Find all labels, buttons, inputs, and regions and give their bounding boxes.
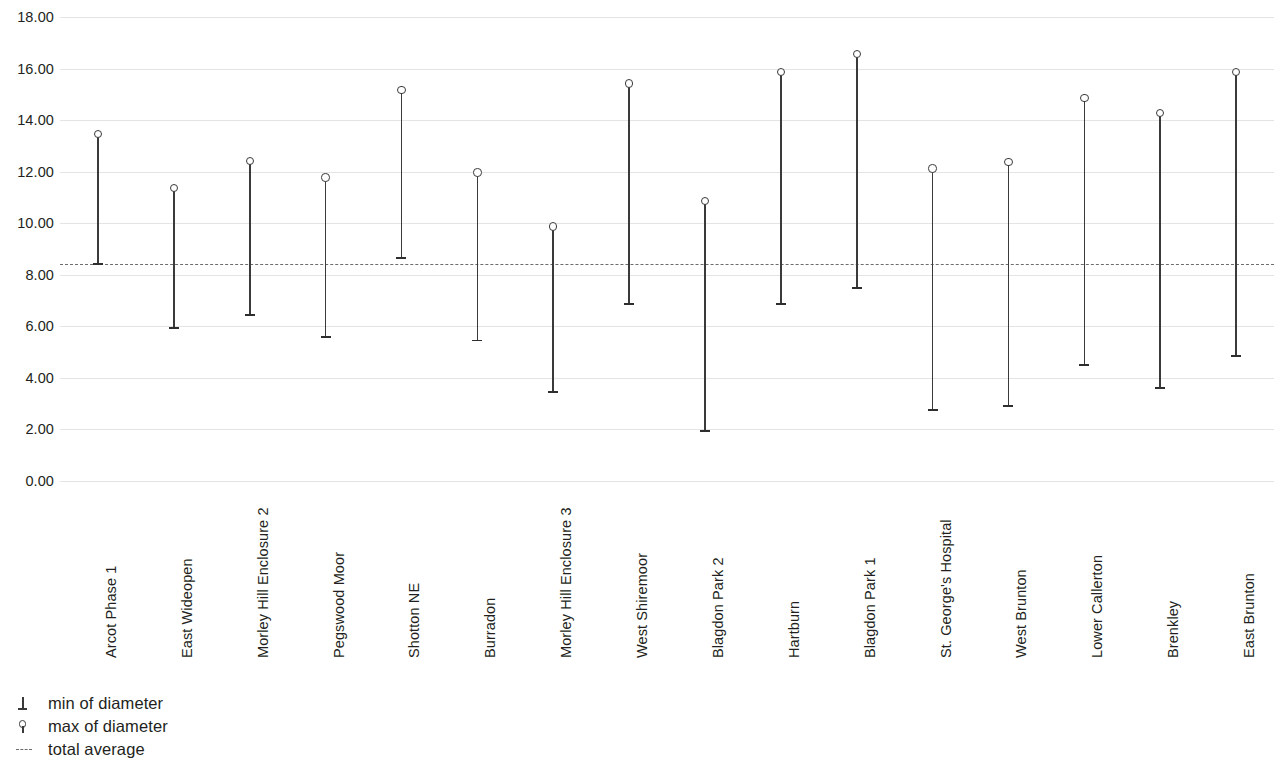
x-axis-tick-label: Blagdon Park 1: [863, 557, 878, 658]
min-marker: [1231, 355, 1241, 357]
x-axis-tick-label: Arcot Phase 1: [104, 566, 119, 658]
range-stem: [325, 178, 327, 337]
max-marker: [1004, 158, 1012, 166]
min-marker: [93, 263, 103, 265]
x-axis-tick: Brenkley: [1166, 601, 1181, 658]
y-axis-tick-label: 8.00: [6, 268, 54, 283]
x-axis-tick: Lower Callerton: [1090, 555, 1105, 658]
y-axis-tick-label: 10.00: [6, 216, 54, 231]
x-axis-tick: Morley Hill Enclosure 2: [256, 507, 271, 658]
min-cap-icon: [14, 692, 48, 715]
dashed-line-icon: [14, 738, 48, 761]
range-stem: [1008, 163, 1010, 407]
max-marker: [94, 130, 102, 138]
x-axis-tick-label: Morley Hill Enclosure 2: [256, 507, 271, 658]
y-axis-tick-label: 4.00: [6, 371, 54, 386]
max-marker: [701, 197, 709, 205]
range-stem: [401, 90, 403, 258]
legend-item-min: min of diameter: [14, 692, 334, 715]
x-axis-tick-label: Blagdon Park 2: [711, 557, 726, 658]
max-marker: [1232, 68, 1240, 76]
x-axis-tick-label: Burradon: [483, 598, 498, 658]
min-marker: [700, 430, 710, 432]
y-axis-tick-label: 18.00: [6, 10, 54, 25]
range-stem: [552, 227, 554, 392]
range-stem: [856, 54, 858, 287]
gridline: [60, 378, 1274, 379]
chart-legend: min of diameter max of diameter total av…: [14, 692, 334, 761]
x-axis-tick: West Brunton: [1014, 569, 1029, 658]
x-axis-tick: St. George's Hospital: [939, 519, 954, 658]
max-circle-icon: [14, 715, 48, 738]
legend-label-average: total average: [48, 738, 145, 761]
max-marker: [777, 68, 785, 76]
min-marker: [472, 340, 482, 342]
x-axis-tick: Blagdon Park 1: [863, 557, 878, 658]
min-marker: [396, 257, 406, 259]
y-axis-tick-label: 2.00: [6, 422, 54, 437]
y-axis-tick-label: 0.00: [6, 474, 54, 489]
gridline: [60, 429, 1274, 430]
x-axis-tick-label: St. George's Hospital: [939, 519, 954, 658]
range-stem: [932, 169, 934, 410]
legend-label-min: min of diameter: [48, 692, 163, 715]
min-marker: [928, 409, 938, 411]
average-reference-line: [60, 264, 1274, 265]
y-axis-tick-label: 16.00: [6, 62, 54, 77]
max-marker: [397, 86, 405, 94]
range-stem: [1084, 98, 1086, 365]
max-marker: [625, 79, 633, 87]
min-marker: [169, 327, 179, 329]
x-axis-tick-label: East Brunton: [1242, 573, 1257, 658]
x-axis-tick-label: Shotton NE: [407, 583, 422, 658]
gridline: [60, 223, 1274, 224]
x-axis-tick: Morley Hill Enclosure 3: [559, 507, 574, 658]
x-axis-tick: Hartburn: [787, 601, 802, 658]
legend-item-max: max of diameter: [14, 715, 334, 738]
y-axis-tick-label: 6.00: [6, 319, 54, 334]
max-marker: [473, 168, 481, 176]
max-marker: [321, 173, 329, 181]
legend-item-average: total average: [14, 738, 334, 761]
range-stem: [780, 72, 782, 304]
range-chart: 18.0016.0014.0012.0010.008.006.004.002.0…: [0, 0, 1274, 771]
min-marker: [624, 303, 634, 305]
max-marker: [246, 157, 254, 165]
x-axis-tick: Burradon: [483, 598, 498, 658]
gridline: [60, 120, 1274, 121]
max-marker: [928, 164, 936, 172]
range-stem: [1235, 72, 1237, 356]
min-marker: [852, 287, 862, 289]
x-axis-tick: Pegswood Moor: [332, 552, 347, 658]
x-axis-tick-label: Brenkley: [1166, 601, 1181, 658]
x-axis-tick-label: East Wideopen: [180, 558, 195, 658]
gridline: [60, 69, 1274, 70]
y-axis-tick-label: 14.00: [6, 113, 54, 128]
x-axis-tick: Arcot Phase 1: [104, 566, 119, 658]
x-axis-tick: East Brunton: [1242, 573, 1257, 658]
y-axis-tick-label: 12.00: [6, 165, 54, 180]
range-stem: [704, 201, 706, 430]
min-marker: [1079, 364, 1089, 366]
max-marker: [1156, 109, 1164, 117]
min-marker: [321, 336, 331, 338]
x-axis-tick-label: Lower Callerton: [1090, 555, 1105, 658]
x-axis-tick-label: Morley Hill Enclosure 3: [559, 507, 574, 658]
x-axis-tick-label: West Brunton: [1014, 569, 1029, 658]
x-axis-tick-label: Hartburn: [787, 601, 802, 658]
min-marker: [548, 391, 558, 393]
max-marker: [853, 50, 861, 58]
x-axis-tick: West Shiremoor: [635, 553, 650, 658]
range-stem: [477, 173, 479, 341]
min-marker: [245, 314, 255, 316]
x-axis-tick: Blagdon Park 2: [711, 557, 726, 658]
x-axis-labels: Arcot Phase 1East WideopenMorley Hill En…: [60, 486, 1274, 666]
range-stem: [628, 84, 630, 304]
gridline: [60, 172, 1274, 173]
range-stem: [97, 134, 99, 264]
x-axis-tick-label: Pegswood Moor: [332, 552, 347, 658]
gridline: [60, 17, 1274, 18]
range-stem: [1159, 114, 1161, 389]
max-marker: [170, 184, 178, 192]
x-axis-tick: East Wideopen: [180, 558, 195, 658]
